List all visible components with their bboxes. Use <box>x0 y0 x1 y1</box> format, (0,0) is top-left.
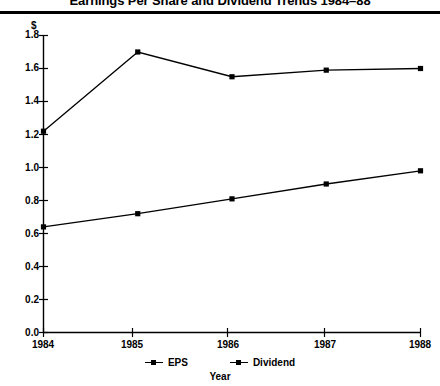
legend-marker-icon <box>230 358 248 367</box>
legend-item-eps: EPS <box>145 357 188 368</box>
legend-label: Dividend <box>253 357 295 368</box>
data-point-marker <box>41 129 46 134</box>
series-eps <box>41 49 423 133</box>
chart-plot-area: $ 1.8 1.6 1.4 1.2 1.0 0.8 0.6 0.4 0.2 0.… <box>0 0 440 386</box>
data-point-marker <box>135 49 140 54</box>
series-layer <box>41 49 423 229</box>
data-point-marker <box>324 181 329 186</box>
chart-svg <box>0 0 440 386</box>
data-point-marker <box>418 66 423 71</box>
data-point-marker <box>418 168 423 173</box>
data-point-marker <box>41 224 46 229</box>
x-axis-title: Year <box>0 371 440 382</box>
chart-legend: EPS Dividend <box>0 357 440 368</box>
legend-label: EPS <box>168 357 188 368</box>
legend-item-dividend: Dividend <box>230 357 295 368</box>
data-point-marker <box>229 74 234 79</box>
series-dividend <box>41 168 423 229</box>
data-point-marker <box>229 196 234 201</box>
legend-marker-icon <box>145 358 163 367</box>
data-point-marker <box>135 211 140 216</box>
series-line <box>44 52 421 131</box>
data-point-marker <box>324 68 329 73</box>
